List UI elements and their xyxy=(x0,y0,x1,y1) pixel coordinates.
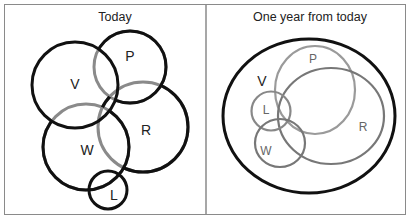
label-v-today: V xyxy=(70,76,80,92)
label-r-today: R xyxy=(141,122,151,138)
panel-today-title: Today xyxy=(98,10,132,24)
label-l-future: L xyxy=(263,103,270,117)
label-r-future: R xyxy=(359,120,368,134)
panel-future-frame xyxy=(206,5,406,215)
label-p-today: P xyxy=(125,48,134,64)
label-v-future: V xyxy=(257,73,267,89)
set-l-future xyxy=(252,92,291,131)
panel-today: Today V P R W L xyxy=(32,10,188,209)
label-l-today: L xyxy=(110,187,118,203)
panel-future-title: One year from today xyxy=(253,10,368,24)
label-p-future: P xyxy=(309,52,317,66)
label-w-future: W xyxy=(260,144,272,158)
set-r-future xyxy=(278,68,384,164)
label-w-today: W xyxy=(80,142,94,158)
venn-figure: Today V P R W L One year from today xyxy=(0,0,413,219)
panel-future: One year from today V P R L W xyxy=(223,10,395,193)
